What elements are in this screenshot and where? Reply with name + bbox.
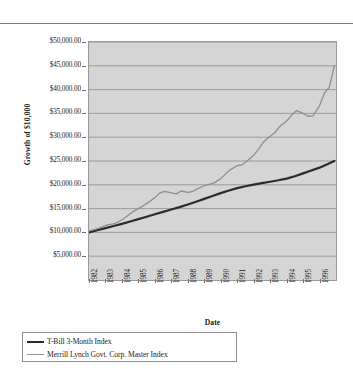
x-axis-tick-label: 1990	[224, 269, 231, 283]
x-axis-tick-label: 1983	[108, 269, 115, 283]
x-axis-tick-labels: 1982198319841985198619871988198919901991…	[88, 283, 337, 317]
legend-swatch-tbill-icon	[27, 341, 44, 343]
x-axis-tick-mark	[171, 279, 172, 283]
y-axis-tick-label: $10,000.00	[50, 228, 81, 235]
x-axis-tick-mark	[138, 279, 139, 283]
plot-svg	[89, 42, 336, 280]
y-axis-tick-label: $30,000.00	[50, 133, 81, 140]
x-axis-tick-mark	[155, 279, 156, 283]
x-axis-tick-label: 1987	[174, 269, 181, 283]
x-axis-tick-mark	[105, 279, 106, 283]
y-axis-tick-label: $25,000.00	[50, 157, 81, 164]
y-axis-tick-mark	[82, 113, 86, 114]
legend-item-tbill: T-Bill 3-Month Index	[23, 335, 236, 348]
x-axis-tick-mark	[204, 279, 205, 283]
x-axis-tick-label: 1984	[125, 269, 132, 283]
x-axis-tick-mark	[320, 279, 321, 283]
y-axis-tick-mark	[82, 232, 86, 233]
y-axis-tick-labels: $50,000.00$45,000.00$40,000.00$35,000.00…	[0, 41, 86, 281]
x-axis-tick-label: 1991	[240, 269, 247, 283]
y-axis-tick-label: $5,000.00	[53, 252, 81, 259]
x-axis-tick-mark	[237, 279, 238, 283]
x-axis-tick-label: 1989	[207, 269, 214, 283]
legend-label-tbill: T-Bill 3-Month Index	[47, 337, 112, 346]
y-axis-tick-mark	[82, 137, 86, 138]
x-axis-tick-label: 1995	[306, 269, 313, 283]
x-axis-tick-mark	[287, 279, 288, 283]
x-axis-tick-mark	[254, 279, 255, 283]
legend-item-merrill: Merrill Lynch Govt. Corp. Master Index	[23, 348, 236, 361]
legend-swatch-merrill-icon	[27, 354, 44, 355]
x-axis-tick-mark	[89, 279, 90, 283]
series-line-merrill	[89, 66, 334, 231]
x-axis-tick-mark	[270, 279, 271, 283]
y-axis-tick-label: $20,000.00	[50, 181, 81, 188]
legend-label-merrill: Merrill Lynch Govt. Corp. Master Index	[47, 350, 168, 359]
x-axis-tick-mark	[303, 279, 304, 283]
y-axis-tick-mark	[82, 209, 86, 210]
x-axis-tick-mark	[188, 279, 189, 283]
y-axis-tick-label: $45,000.00	[50, 62, 81, 69]
y-axis-tick-label: $40,000.00	[50, 86, 81, 93]
x-axis-tick-label: 1994	[290, 269, 297, 283]
y-axis-tick-mark	[82, 185, 86, 186]
y-axis-tick-mark	[82, 42, 86, 43]
chart-legend: T-Bill 3-Month Index Merrill Lynch Govt.…	[22, 332, 237, 362]
y-axis-tick-label: $50,000.00	[50, 38, 81, 45]
y-axis-tick-mark	[82, 256, 86, 257]
y-axis-tick-mark	[82, 161, 86, 162]
y-axis-tick-label: $15,000.00	[50, 205, 81, 212]
growth-of-10000-line-chart: Growth of $10,000 $50,000.00$45,000.00$4…	[0, 0, 353, 369]
x-axis-tick-label: 1992	[257, 269, 264, 283]
y-axis-tick-mark	[82, 66, 86, 67]
x-axis-tick-label: 1988	[191, 269, 198, 283]
x-axis-title: Date	[88, 318, 337, 327]
x-axis-tick-mark	[221, 279, 222, 283]
plot-area	[88, 41, 337, 281]
x-axis-tick-label: 1986	[158, 269, 165, 283]
y-axis-tick-label: $35,000.00	[50, 109, 81, 116]
x-axis-tick-label: 1996	[323, 269, 330, 283]
x-axis-tick-label: 1982	[92, 269, 99, 283]
y-axis-tick-mark	[82, 90, 86, 91]
series-line-tbill	[89, 161, 334, 232]
x-axis-tick-label: 1993	[273, 269, 280, 283]
x-axis-tick-mark	[122, 279, 123, 283]
x-axis-tick-label: 1985	[141, 269, 148, 283]
